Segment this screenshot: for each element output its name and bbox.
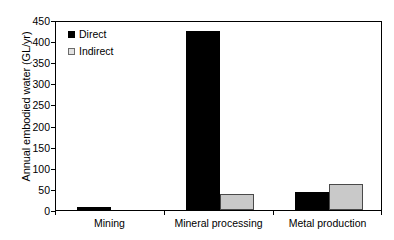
legend-label-direct: Direct (79, 29, 106, 40)
legend-label-indirect: Indirect (79, 46, 113, 57)
chart-figure: Annual embodied water (GL/yr) 0501001502… (0, 0, 394, 240)
x-tick-mark (273, 211, 274, 215)
bar-indirect-metal-production (329, 184, 363, 210)
bar-direct-mineral-processing (186, 31, 220, 210)
plot-area: Direct Indirect (55, 21, 382, 211)
y-tick-label: 400 (20, 37, 50, 47)
x-axis-tick-marks (55, 211, 382, 216)
x-tick-label-mineral-processing: Mineral processing (174, 217, 262, 230)
y-tick-label: 50 (20, 185, 50, 195)
x-axis-tick-labels: MiningMineral processingMetal production (55, 217, 382, 233)
y-axis-tick-labels: 050100150200250300350400450 (20, 21, 50, 211)
legend-swatch-direct-icon (68, 31, 75, 38)
legend-item-direct: Direct (68, 27, 148, 42)
y-tick-label: 0 (20, 206, 50, 216)
x-tick-label-mining: Mining (94, 217, 125, 230)
legend-item-indirect: Indirect (68, 44, 148, 59)
y-tick-label: 350 (20, 58, 50, 68)
y-tick-label: 150 (20, 143, 50, 153)
legend-swatch-indirect-icon (68, 48, 75, 55)
bar-indirect-mineral-processing (220, 194, 254, 210)
y-tick-label: 100 (20, 164, 50, 174)
y-tick-label: 200 (20, 122, 50, 132)
y-tick-label: 450 (20, 16, 50, 26)
bar-direct-mining (77, 207, 111, 210)
x-tick-mark (55, 211, 56, 215)
bar-direct-metal-production (295, 192, 329, 210)
y-tick-label: 250 (20, 100, 50, 110)
x-tick-mark (381, 211, 382, 215)
chart-legend: Direct Indirect (68, 27, 148, 61)
y-tick-label: 300 (20, 79, 50, 89)
x-tick-mark (164, 211, 165, 215)
x-tick-label-metal-production: Metal production (289, 217, 367, 230)
